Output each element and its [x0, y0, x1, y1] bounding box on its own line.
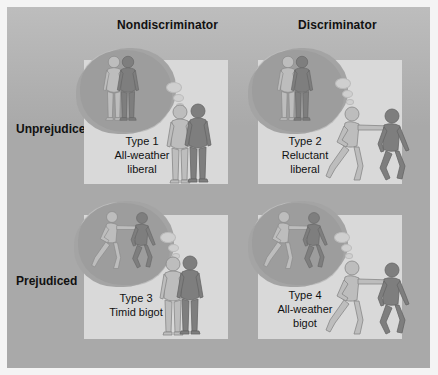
cell-label-type-4: Type 4 All-weather bigot — [266, 288, 344, 330]
type-name-line2: bigot — [266, 316, 344, 330]
actual-figures-pushing-icon — [0, 0, 438, 375]
type-name-line1: All-weather — [266, 302, 344, 316]
type-number: Type 4 — [266, 288, 344, 302]
